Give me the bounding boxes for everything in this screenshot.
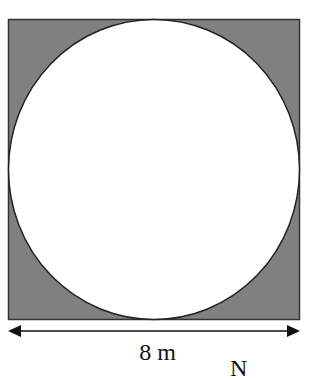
dimension-label: 8 m xyxy=(0,338,315,366)
dimension-arrow xyxy=(8,325,300,337)
arrowhead-right-icon xyxy=(287,325,300,337)
arrowhead-left-icon xyxy=(8,325,21,337)
clipped-text: N xyxy=(230,354,247,380)
inscribed-circle xyxy=(9,20,300,320)
